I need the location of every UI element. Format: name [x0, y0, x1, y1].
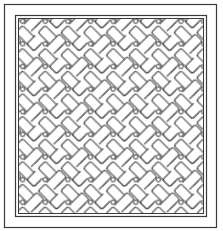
- coloring-artwork: [0, 0, 223, 231]
- weave-pattern: [18, 18, 204, 214]
